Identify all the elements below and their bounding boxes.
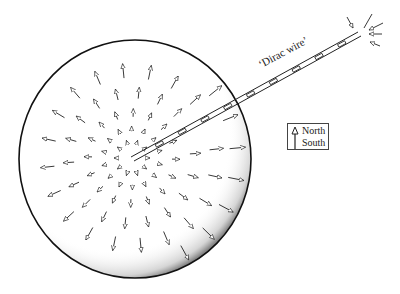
dirac-monopole-diagram: ‘Dirac wire’ North South <box>0 0 400 294</box>
arrow-icon <box>290 126 300 150</box>
legend-north-label: North <box>302 125 325 136</box>
legend-south-label: South <box>302 137 325 148</box>
diagram-canvas <box>0 0 400 294</box>
legend-box: North South <box>287 123 329 150</box>
sphere <box>19 40 251 278</box>
